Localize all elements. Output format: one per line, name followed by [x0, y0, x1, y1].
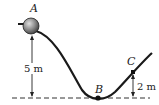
roller-track-diagram: A 5 m B C 2 m — [0, 0, 159, 105]
point-b — [95, 95, 100, 100]
label-b: B — [94, 83, 103, 96]
arrowhead-up-icon — [30, 35, 34, 40]
label-a: A — [29, 2, 38, 15]
arrowhead-down-icon — [30, 92, 34, 97]
point-c — [131, 70, 135, 74]
dim-label-2m: 2 m — [137, 81, 157, 92]
label-c: C — [127, 55, 136, 68]
dim-label-5m: 5 m — [24, 63, 44, 74]
arrowhead-down-icon — [131, 92, 135, 97]
ball-at-a — [23, 18, 39, 34]
